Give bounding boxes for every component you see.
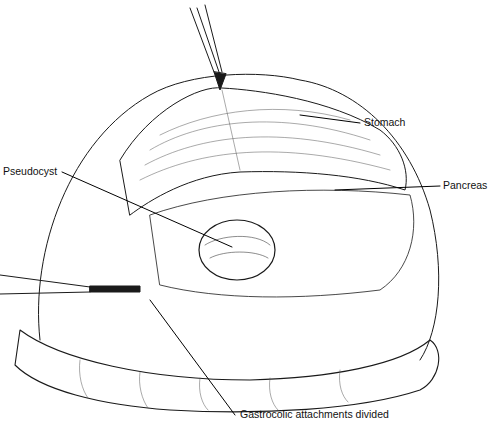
pancreas — [150, 190, 414, 297]
label-stomach: Stomach — [364, 116, 405, 128]
transverse-colon — [15, 330, 439, 412]
stomach — [120, 88, 406, 215]
leader-pancreas — [335, 186, 440, 190]
label-gastrocolic: Gastrocolic attachments divided — [240, 408, 389, 420]
clamp-left-icon — [0, 275, 140, 294]
pseudocyst — [199, 220, 275, 280]
leader-pseudocyst — [62, 172, 232, 247]
surgical-illustration — [0, 0, 493, 434]
label-pancreas: Pancreas — [443, 179, 487, 191]
label-pseudocyst: Pseudocyst — [3, 165, 57, 177]
leader-stomach — [300, 115, 360, 123]
leader-gastrocolic — [150, 300, 235, 415]
